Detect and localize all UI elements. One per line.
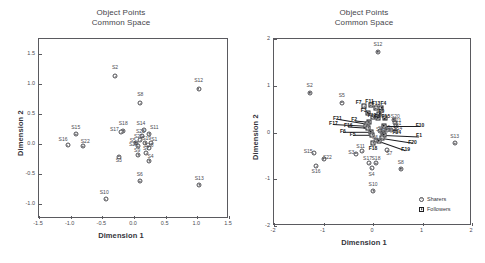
x-tick [472,223,473,226]
point-label: F17 [329,121,338,126]
point-label: S15 [304,149,313,154]
data-point-follower[interactable] [370,132,375,137]
data-point-sharer[interactable] [398,166,403,171]
circle-icon [103,197,108,202]
circle-icon [307,90,312,95]
data-point-follower[interactable] [376,138,381,143]
point-label: S4 [368,172,374,177]
circle-icon [196,86,201,91]
circle-icon [375,49,380,54]
data-point-sharer[interactable] [80,144,85,149]
legend-item[interactable]: Followers [419,205,451,213]
point-label: F20 [408,140,417,145]
chart-title-left: Object Points Common Space [0,8,242,28]
y-tick-label: 1 [267,82,270,88]
data-point-sharer[interactable] [373,161,378,166]
x-tick-label: 0.0 [129,220,137,226]
point-label: S8 [398,160,404,165]
label-leader-line [384,126,420,127]
data-point-sharer[interactable] [137,179,142,184]
y-tick [39,84,42,85]
circle-icon [80,144,85,149]
point-label: S11 [150,125,159,130]
point-label: S7 [386,151,392,156]
point-label: S13 [195,176,204,181]
chart-title-right-line1: Object Points [340,8,389,17]
chart-panel-left: Object Points Common Space S2S12S8S18S17… [0,0,242,263]
point-label: S9 [134,148,140,153]
point-label: S15 [71,125,80,130]
x-tick [373,223,374,226]
point-label: S22 [323,155,332,160]
x-axis-title-left: Dimension 1 [0,231,242,240]
point-label: F3 [361,108,367,113]
point-label: S17 [110,127,119,132]
x-tick-label: 0.5 [161,220,169,226]
circle-icon [113,74,118,79]
x-tick-label: -2 [271,227,276,233]
square-icon [419,207,424,212]
x-tick-label: -1 [320,227,325,233]
data-point-sharer[interactable] [197,182,202,187]
data-point-sharer[interactable] [339,100,344,105]
y-tick-label: 0.5 [27,110,35,116]
point-label: S8 [137,92,143,97]
x-tick-label: 2 [469,227,472,233]
point-label: S13 [450,134,459,139]
data-point-sharer[interactable] [196,86,201,91]
y-tick-label: 0 [267,129,270,135]
y-tick [274,86,277,87]
x-tick [423,223,424,226]
y-axis-title-left: Dimension 2 [16,110,25,156]
circle-icon [371,188,376,193]
data-point-sharer[interactable] [375,49,380,54]
y-tick [39,204,42,205]
circle-icon [73,132,78,137]
x-tick [229,216,230,219]
y-tick [39,54,42,55]
label-leader-line [384,135,419,137]
point-label: F8 [375,114,381,119]
data-point-follower[interactable] [381,123,386,128]
y-axis-title-right: Dimension 2 [251,114,260,160]
circle-icon [373,161,378,166]
data-point-sharer[interactable] [452,141,457,146]
circle-icon [197,182,202,187]
x-tick [197,216,198,219]
point-label: F15 [382,114,391,119]
data-point-sharer[interactable] [138,101,143,106]
x-tick-label: -1.0 [65,220,74,226]
square-icon [370,132,375,137]
point-label: S10 [369,182,378,187]
point-label: S2 [307,83,313,88]
data-point-sharer[interactable] [307,90,312,95]
label-leader-line [343,132,371,133]
data-point-sharer[interactable] [119,130,124,135]
data-point-sharer[interactable] [113,74,118,79]
data-point-sharer[interactable] [371,188,376,193]
square-icon [381,123,386,128]
data-point-sharer[interactable] [73,132,78,137]
legend-item[interactable]: Sharers [419,195,451,203]
x-tick-label: -0.5 [97,220,106,226]
x-tick-label: 1.5 [224,220,232,226]
data-point-sharer[interactable] [65,143,70,148]
chart-title-right: Object Points Common Space [243,8,485,28]
point-label: S16 [59,137,68,142]
point-label: F7 [356,100,362,105]
x-tick-label: 0 [370,227,373,233]
y-tick-label: -1 [265,175,270,181]
point-label: S4 [147,154,153,159]
point-label: S2 [112,65,118,70]
point-label: S3 [348,150,354,155]
point-label: S12 [194,78,203,83]
x-tick [134,216,135,219]
data-point-sharer[interactable] [103,197,108,202]
circle-icon [452,141,457,146]
legend-label: Followers [427,206,451,212]
circle-icon [339,100,344,105]
point-label: S14 [137,121,146,126]
y-tick [39,114,42,115]
square-icon [376,138,381,143]
y-tick-label: 1.0 [27,80,35,86]
